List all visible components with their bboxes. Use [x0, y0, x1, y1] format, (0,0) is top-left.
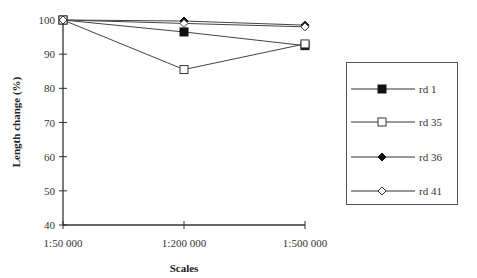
- y-axis-title: Length change (%): [10, 76, 23, 167]
- x-tick-label: 1:500 000: [283, 237, 328, 249]
- data-point: [301, 40, 309, 48]
- filled-square-marker-icon: [351, 81, 415, 97]
- legend: rd 1 rd 35 rd 36 rd 41: [346, 62, 458, 205]
- legend-label: rd 35: [419, 116, 442, 128]
- legend-label: rd 1: [419, 83, 436, 95]
- data-point: [180, 28, 188, 36]
- legend-item-rd36: rd 36: [347, 149, 457, 169]
- legend-item-rd1: rd 1: [347, 81, 457, 101]
- y-tick-label: 60: [44, 151, 56, 163]
- legend-item-rd41: rd 41: [347, 183, 457, 203]
- y-tick-label: 40: [44, 219, 56, 231]
- open-diamond-marker-icon: [351, 183, 415, 199]
- data-point: [180, 66, 188, 74]
- x-tick-label: 1:200 000: [162, 237, 207, 249]
- series-group: [59, 16, 309, 74]
- y-tick-label: 90: [44, 48, 56, 60]
- y-tick-label: 70: [44, 117, 56, 129]
- legend-item-rd35: rd 35: [347, 114, 457, 134]
- y-tick-label: 80: [44, 82, 56, 94]
- axes: 4050607080901001:50 0001:200 0001:500 00…: [39, 14, 328, 249]
- legend-label: rd 36: [419, 151, 442, 163]
- legend-label: rd 41: [419, 185, 442, 197]
- x-tick-label: 1:50 000: [44, 237, 83, 249]
- y-tick-label: 50: [44, 185, 56, 197]
- x-axis-title: Scales: [170, 262, 199, 274]
- open-square-marker-icon: [351, 114, 415, 130]
- y-tick-label: 100: [39, 14, 56, 26]
- filled-diamond-marker-icon: [351, 149, 415, 165]
